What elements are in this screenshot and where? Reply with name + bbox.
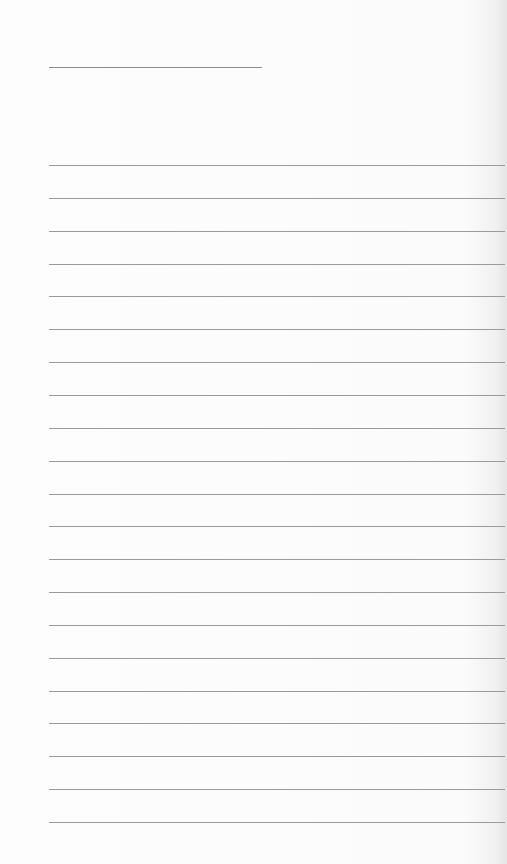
- ruled-line: [49, 231, 505, 232]
- title-line: [49, 67, 262, 68]
- ruled-line: [49, 296, 505, 297]
- ruled-line: [49, 526, 505, 527]
- ruled-line: [49, 592, 505, 593]
- ruled-line: [49, 691, 505, 692]
- ruled-line: [49, 329, 505, 330]
- ruled-line: [49, 362, 505, 363]
- ruled-line: [49, 395, 505, 396]
- ruled-line: [49, 461, 505, 462]
- lined-paper-sheet: [0, 0, 507, 864]
- ruled-line: [49, 789, 505, 790]
- ruled-line: [49, 428, 505, 429]
- ruled-line: [49, 625, 505, 626]
- ruled-line: [49, 494, 505, 495]
- ruled-line: [49, 165, 505, 166]
- ruled-line: [49, 198, 505, 199]
- ruled-line: [49, 822, 505, 823]
- ruled-line: [49, 723, 505, 724]
- ruled-line: [49, 658, 505, 659]
- ruled-line: [49, 559, 505, 560]
- ruled-line: [49, 756, 505, 757]
- ruled-line: [49, 264, 505, 265]
